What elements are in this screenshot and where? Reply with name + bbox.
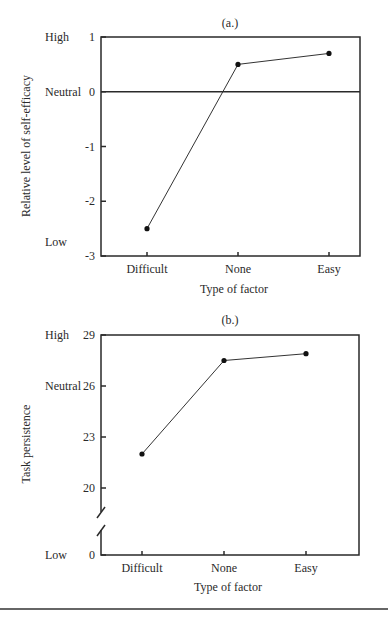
panel-b-y-tick-label: 0 <box>89 548 95 562</box>
panel-a-y-axis-label: Relative level of self-efficacy <box>19 75 33 217</box>
panel-a-x-axis-label: Type of factor <box>200 282 268 296</box>
panel-a-x-tick-label: Difficult <box>126 262 168 276</box>
figure: (a.) Relative level of self-efficacy Typ… <box>0 0 388 617</box>
panel-a-qualitative-label: Low <box>45 235 67 249</box>
panel-b-x-tick-label: Difficult <box>121 561 163 575</box>
panel-b-title: (b.) <box>222 313 239 327</box>
panel-a-y-tick-label: 1 <box>89 30 95 44</box>
panel-b-qualitative-label: High <box>45 328 69 342</box>
panel-a-series-line <box>147 53 329 228</box>
panel-b-y-tick-label: 26 <box>83 379 95 393</box>
panel-b-x-axis-label: Type of factor <box>194 580 262 594</box>
panel-b-y-tick-label: 20 <box>83 481 95 495</box>
panel-b-y-tick-label: 29 <box>83 328 95 342</box>
panel-a: (a.) Relative level of self-efficacy Typ… <box>19 16 360 296</box>
panel-b-data-point <box>221 358 226 363</box>
panel-a-frame <box>101 37 360 256</box>
panel-a-x-tick-label: None <box>225 262 251 276</box>
panel-b-frame <box>101 335 359 555</box>
panel-a-y-tick-label: -3 <box>85 249 95 263</box>
panel-a-qualitative-label: Neutral <box>45 85 82 99</box>
panel-b-x-tick-label: Easy <box>294 561 317 575</box>
panel-b-qualitative-label: Low <box>45 548 67 562</box>
panel-a-y-tick-label: -1 <box>85 140 95 154</box>
panel-b-series-line <box>142 354 306 454</box>
panel-a-x-tick-label: Easy <box>317 262 340 276</box>
panel-a-qualitative-label: High <box>45 30 69 44</box>
panel-b-y-axis-label: Task persistence <box>19 405 33 484</box>
panel-b: (b.) Task persistence Type of factor 292… <box>19 313 359 594</box>
panel-a-y-tick-label: -2 <box>85 194 95 208</box>
panel-b-qualitative-label: Neutral <box>45 379 82 393</box>
panel-a-data-point <box>326 51 331 56</box>
panel-b-data-point <box>303 351 308 356</box>
panel-b-data-point <box>139 451 144 456</box>
panel-a-y-tick-label: 0 <box>89 85 95 99</box>
panel-b-x-tick-label: None <box>211 561 237 575</box>
panel-a-title: (a.) <box>222 16 238 30</box>
panel-a-data-point <box>235 62 240 67</box>
panel-b-y-tick-label: 23 <box>83 430 95 444</box>
panel-a-data-point <box>144 226 149 231</box>
